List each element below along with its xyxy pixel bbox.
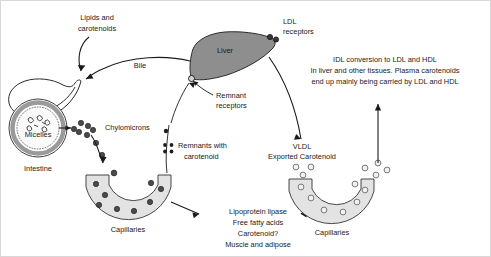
lipids-carotenoids-label-line1: Lipids and [80, 13, 114, 22]
exported-carotenoid-label: Exported Carotenoid [268, 152, 336, 161]
pathway-diagram: Liver LDL receptors Remnant receptors Bi… [1, 1, 491, 257]
bile-label: Bile [134, 61, 146, 70]
vldl-label: VLDL [293, 142, 312, 151]
remnants-label-line1: Remnants with [178, 141, 227, 150]
idl-conversion-arrowhead [375, 104, 381, 110]
micelle-villi-boundary [17, 107, 59, 149]
remnant-return-path-upper [171, 83, 189, 123]
liver-label: Liver [217, 46, 234, 55]
left-capillary-bed [86, 175, 171, 220]
idl-note-line1: IDL conversion to LDL and HDL [333, 55, 437, 64]
tissue-note-line2: Free fatty acids [233, 218, 284, 227]
vldl-export-arrow [269, 57, 301, 139]
liver-shape [190, 32, 275, 80]
tissue-note-line4: Muscle and adipose [225, 240, 291, 249]
tissue-note-line3: Carotenoid? [238, 229, 278, 238]
remnant-receptor-dot [189, 76, 195, 82]
intestine-label: Intestine [24, 164, 52, 173]
lipids-carotenoids-label-line2: carotenoids [78, 24, 117, 33]
ldl-receptor-dot-2 [273, 37, 278, 42]
diagram-canvas: Liver LDL receptors Remnant receptors Bi… [0, 0, 491, 257]
lipids-intake-arrowhead [78, 65, 86, 71]
micelles-label: Micelles [25, 130, 52, 139]
capillaries-right-label: Capillaries [315, 228, 350, 237]
ldl-receptor-dot-1 [267, 34, 272, 39]
right-capillary-outside-particles [362, 160, 390, 178]
vldl-particles [293, 164, 314, 178]
left-capillary-output-arrow [171, 202, 199, 214]
tissue-note-line1: Lipoprotein lipase [229, 207, 287, 216]
remnant-receptors-label-line2: receptors [216, 101, 247, 110]
ldl-receptors-label-line1: LDL [283, 17, 297, 26]
remnants-label-line2: carotenoid [184, 152, 219, 161]
idl-note-line2: In liver and other tissues. Plasma carot… [310, 66, 459, 75]
remnant-receptors-label-line1: Remnant [216, 91, 246, 100]
chylomicrons-label: Chylomicrons [105, 123, 150, 132]
ldl-receptors-label-line2: receptors [283, 27, 314, 36]
micelle-to-chylomicron-arrowhead [65, 125, 71, 130]
idl-note-line3: end up mainly being carried by LDL and H… [311, 77, 458, 86]
capillaries-left-label: Capillaries [111, 225, 146, 234]
chylomicron-to-capillary-arrowhead [99, 156, 106, 163]
